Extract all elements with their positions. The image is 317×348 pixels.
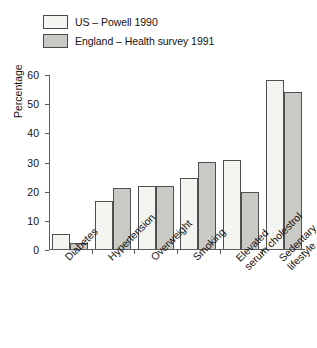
legend-label-us: US – Powell 1990 xyxy=(75,16,158,28)
legend-item: England – Health survey 1991 xyxy=(43,32,293,50)
x-tick xyxy=(134,250,135,254)
x-tick xyxy=(92,250,93,254)
y-tick-label-20: 20 xyxy=(27,186,39,198)
x-tick xyxy=(220,250,221,254)
y-tick-label-40: 40 xyxy=(27,127,39,139)
y-tick-60: 60 xyxy=(45,75,49,76)
y-tick-label-50: 50 xyxy=(27,98,39,110)
bar-chart: US – Powell 1990 England – Health survey… xyxy=(0,0,317,348)
legend-item: US – Powell 1990 xyxy=(43,13,293,31)
bar xyxy=(52,234,70,249)
y-tick-label-60: 60 xyxy=(27,69,39,81)
y-tick-label-0: 0 xyxy=(33,244,39,256)
y-axis-line xyxy=(49,75,50,250)
y-tick-label-30: 30 xyxy=(27,157,39,169)
legend-swatch-england xyxy=(43,34,68,48)
y-tick-label-10: 10 xyxy=(27,215,39,227)
y-tick-20: 20 xyxy=(45,192,49,193)
y-tick-10: 10 xyxy=(45,221,49,222)
y-tick-0: 0 xyxy=(45,250,49,251)
y-tick-40: 40 xyxy=(45,133,49,134)
bar-group xyxy=(223,75,259,249)
y-tick-50: 50 xyxy=(45,104,49,105)
bar xyxy=(180,178,198,249)
legend-swatch-us xyxy=(43,15,68,29)
y-tick-30: 30 xyxy=(45,163,49,164)
bar-group xyxy=(52,75,88,249)
y-axis-title: Percentage xyxy=(12,64,24,118)
chart-legend: US – Powell 1990 England – Health survey… xyxy=(43,13,293,51)
x-tick xyxy=(177,250,178,254)
bar xyxy=(95,201,113,249)
bar-group xyxy=(95,75,131,249)
legend-label-england: England – Health survey 1991 xyxy=(75,35,214,47)
